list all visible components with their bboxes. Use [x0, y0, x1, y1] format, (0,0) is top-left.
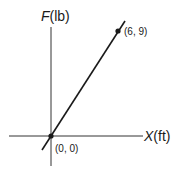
force-displacement-chart: F(lb) X(ft) (0, 0) (6, 9): [0, 0, 174, 170]
data-line: [42, 21, 125, 150]
end-point-label: (6, 9): [124, 26, 147, 37]
origin-point: [48, 133, 53, 138]
x-axis-label: X(ft): [143, 128, 170, 144]
y-axis-label: F(lb): [41, 8, 70, 24]
origin-point-label: (0, 0): [55, 143, 78, 154]
end-point: [115, 28, 120, 33]
